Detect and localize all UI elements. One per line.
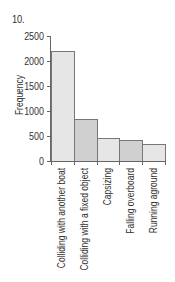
y-tick-label: 2500 <box>10 31 44 41</box>
bar-3 <box>97 138 121 162</box>
bar-5 <box>142 144 166 162</box>
x-category-label: Falling overboard <box>125 168 136 234</box>
y-tick-label: 1000 <box>10 106 44 116</box>
y-tick-label: 2000 <box>10 56 44 66</box>
y-tick-mark <box>47 36 51 37</box>
x-tick-mark <box>119 161 120 165</box>
y-tick-label: 0 <box>10 156 44 166</box>
figure-number: 10. <box>12 13 24 25</box>
y-tick-label: 500 <box>10 131 44 141</box>
x-tick-mark <box>142 161 143 165</box>
bar-2 <box>74 119 98 161</box>
x-category-label: Running aground <box>148 168 159 233</box>
x-tick-mark <box>74 161 75 165</box>
bar-4 <box>119 140 143 162</box>
y-tick-label: 1500 <box>10 81 44 91</box>
x-tick-mark <box>97 161 98 165</box>
x-category-label: Colliding with a fixed object <box>79 168 90 271</box>
x-category-label: Capsizing <box>102 168 113 205</box>
bar-1 <box>51 51 75 161</box>
x-tick-mark <box>51 161 52 165</box>
x-axis-line <box>50 161 166 162</box>
x-category-label: Colliding with another boat <box>56 168 67 268</box>
x-tick-mark <box>165 161 166 165</box>
